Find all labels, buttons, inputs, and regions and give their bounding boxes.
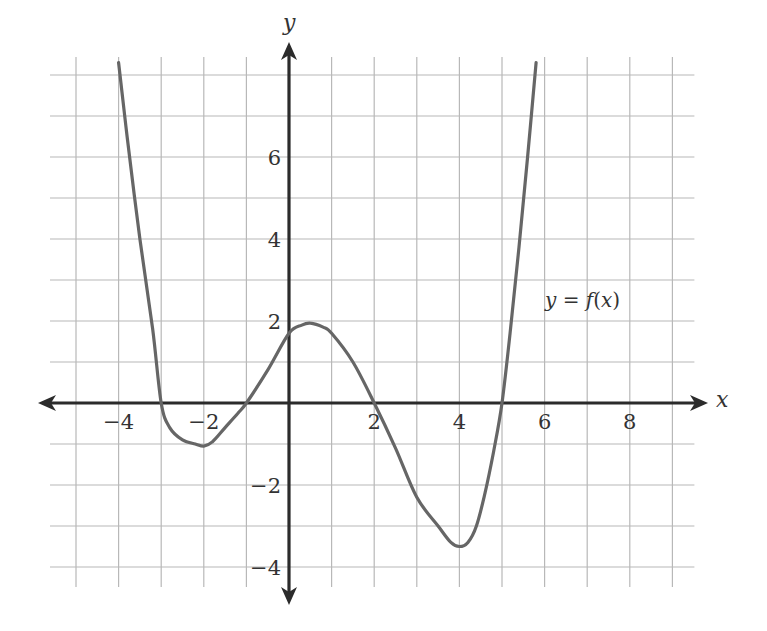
x-axis-label: x	[716, 387, 729, 412]
x-tick-label: 8	[623, 410, 636, 434]
axes	[38, 42, 708, 605]
y-tick-label: −2	[250, 474, 281, 498]
y-axis-label: y	[282, 10, 296, 35]
curve-label: y = f(x)	[544, 288, 620, 312]
y-tick-label: 4	[268, 228, 281, 252]
x-tick-label: 4	[453, 410, 466, 434]
y-tick-label: 2	[268, 310, 281, 334]
tick-labels: −4−22468−4−2246	[103, 146, 636, 580]
grid	[50, 57, 694, 587]
x-tick-label: −2	[188, 410, 219, 434]
x-tick-label: −4	[103, 410, 134, 434]
y-tick-label: 6	[268, 146, 281, 170]
function-graph: −4−22468−4−2246 x y y = f(x)	[0, 0, 767, 631]
x-tick-label: 6	[538, 410, 551, 434]
y-tick-label: −4	[250, 556, 281, 580]
function-curve	[119, 63, 536, 547]
